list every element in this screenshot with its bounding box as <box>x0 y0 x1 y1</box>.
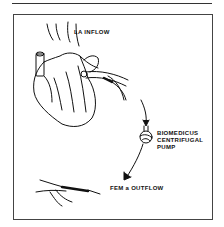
fem-outflow-label: FEM a OUTFLOW <box>110 185 164 192</box>
la-inflow-label: LA INFLOW <box>74 29 110 36</box>
heart-icon <box>34 22 99 126</box>
pump-label-line3: PUMP <box>157 144 176 151</box>
fem-outflow-cannula-icon <box>36 180 100 206</box>
heart-circuit-diagram <box>0 0 224 227</box>
centrifugal-pump-icon <box>140 126 152 143</box>
pump-label-line1: BIOMEDICUS <box>157 130 198 137</box>
pump-label-line2: CENTRIFUGAL <box>157 137 203 144</box>
arrow-down-left-icon <box>126 144 143 178</box>
